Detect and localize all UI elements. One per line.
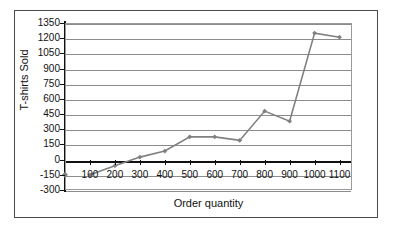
x-axis-tick-label: 300 [132,170,149,180]
zero-axis-line [66,161,351,163]
x-axis-tick-label: 1000 [303,170,325,180]
x-axis-tick-mark [290,160,291,165]
x-axis-tick-mark [315,160,316,165]
x-axis-tick-label: 800 [256,170,273,180]
x-axis-tick-label: 600 [206,170,223,180]
y-axis-tick-mark [60,99,65,100]
x-axis-tick-label: 400 [156,170,173,180]
x-axis-tick-mark [190,160,191,165]
y-axis-tick-label: 150 [14,139,60,149]
chart-figure: -300-1500150300450600750900105012001350 … [0,0,394,232]
y-axis-tick-mark [60,129,65,130]
x-axis-tick-label: 100 [82,170,99,180]
gridline-horizontal [66,39,351,40]
gridline-horizontal [66,70,351,71]
gridline-horizontal [66,24,351,25]
y-axis-tick-label: 0 [14,155,60,165]
x-axis-tick-mark [240,160,241,165]
y-axis-tick-mark [60,175,65,176]
y-axis-tick-mark [60,114,65,115]
gridline-horizontal [66,100,351,101]
x-axis-tick-label: 200 [107,170,124,180]
y-axis-tick-mark [60,53,65,54]
y-axis-tick-mark [60,23,65,24]
x-axis-tick-mark [140,160,141,165]
x-axis-tick-mark [165,160,166,165]
x-axis-tick-mark [90,160,91,165]
y-axis-tick-mark [60,190,65,191]
y-axis-tick-mark [60,144,65,145]
gridline-horizontal [66,191,351,192]
y-axis-tick-label: -150 [14,170,60,180]
gridline-horizontal [66,145,351,146]
gridline-horizontal [66,130,351,131]
x-axis-title: Order quantity [65,197,352,209]
y-axis-tick-label: -300 [14,185,60,195]
x-axis-tick-label: 1100 [329,170,351,180]
gridline-horizontal [66,54,351,55]
x-axis-tick-label: 500 [181,170,198,180]
x-axis-tick-label: 900 [281,170,298,180]
plot-area [65,23,352,190]
y-axis-tick-mark [60,84,65,85]
y-axis-tick-mark [60,38,65,39]
x-axis-tick-mark [340,160,341,165]
y-axis-tick-mark [60,160,65,161]
x-axis-tick-label: 700 [231,170,248,180]
y-axis-title: T-shirts Sold [18,32,30,128]
x-axis-tick-mark [265,160,266,165]
gridline-horizontal [66,85,351,86]
y-axis-tick-mark [60,69,65,70]
gridline-horizontal [66,115,351,116]
x-axis-tick-mark [115,160,116,165]
y-axis-tick-label: 1350 [14,18,60,28]
x-axis-tick-mark [215,160,216,165]
